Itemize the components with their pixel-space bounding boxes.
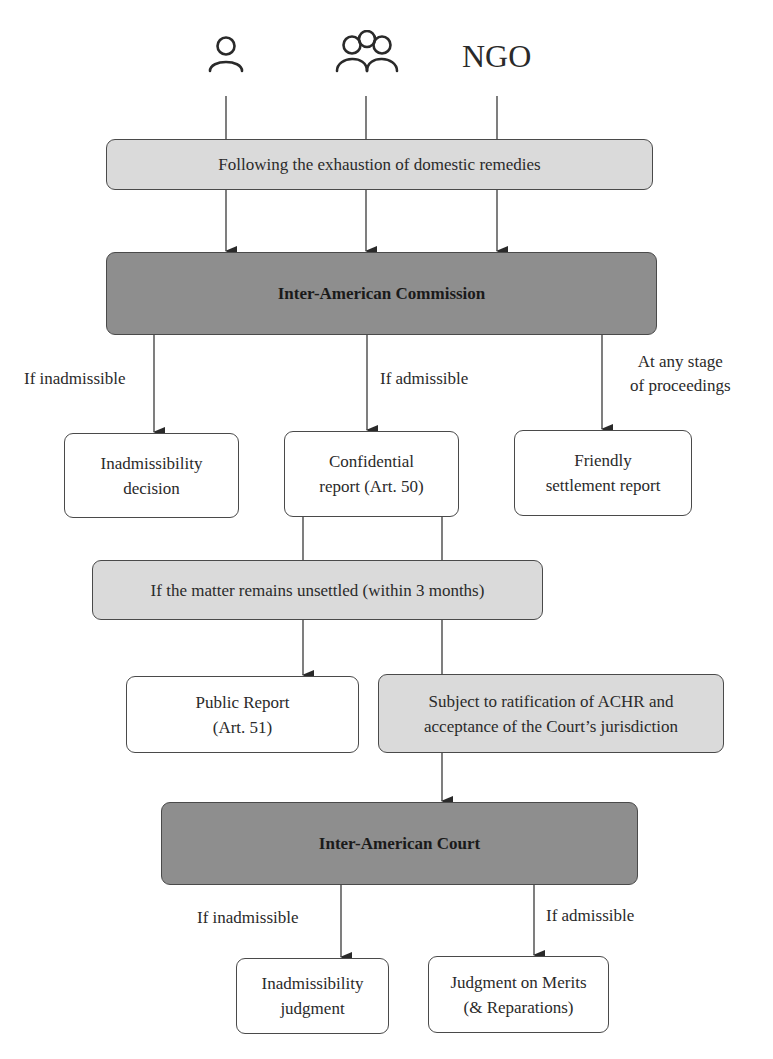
exhaustion-box: Following the exhaustion of domestic rem… [106, 139, 653, 190]
commission-box: Inter-American Commission [106, 252, 657, 335]
friendly-settlement-text: Friendly settlement report [546, 448, 661, 498]
group-icon [334, 30, 400, 76]
confidential-report-text: Confidential report (Art. 50) [319, 449, 423, 499]
label-commission-admissible: If admissible [380, 367, 468, 391]
inadmissibility-decision-text: Inadmissibility decision [101, 451, 203, 501]
public-report-text: Public Report (Art. 51) [196, 690, 290, 740]
friendly-settlement-box: Friendly settlement report [514, 430, 692, 516]
public-report-box: Public Report (Art. 51) [126, 676, 359, 753]
inadmissibility-decision-box: Inadmissibility decision [64, 433, 239, 518]
ratification-text: Subject to ratification of ACHR and acce… [424, 689, 678, 739]
flowchart: NGO Following the exhaustion of domestic… [0, 0, 773, 1059]
person-icon [205, 33, 247, 75]
ratification-box: Subject to ratification of ACHR and acce… [378, 674, 724, 753]
inadmissibility-judgment-text: Inadmissibility judgment [262, 971, 364, 1021]
confidential-report-box: Confidential report (Art. 50) [284, 431, 459, 517]
label-court-inadmissible: If inadmissible [197, 906, 299, 930]
court-box: Inter-American Court [161, 802, 638, 885]
label-commission-inadmissible: If inadmissible [24, 367, 126, 391]
unsettled-text: If the matter remains unsettled (within … [151, 578, 485, 603]
inadmissibility-judgment-box: Inadmissibility judgment [236, 958, 389, 1034]
commission-text: Inter-American Commission [278, 281, 486, 306]
court-text: Inter-American Court [319, 831, 480, 856]
merits-judgment-box: Judgment on Merits (& Reparations) [428, 956, 609, 1033]
label-court-admissible: If admissible [546, 904, 634, 928]
merits-judgment-text: Judgment on Merits (& Reparations) [451, 970, 587, 1020]
label-any-stage: At any stage of proceedings [630, 350, 731, 398]
exhaustion-text: Following the exhaustion of domestic rem… [218, 152, 540, 177]
ngo-label: NGO [462, 38, 531, 75]
unsettled-box: If the matter remains unsettled (within … [92, 560, 543, 620]
